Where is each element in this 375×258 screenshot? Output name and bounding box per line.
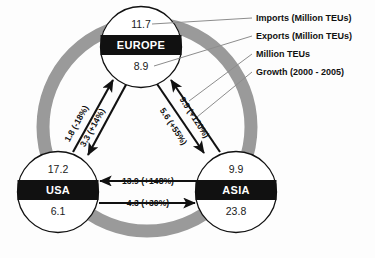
node-usa-imports: 17.2: [48, 163, 69, 175]
legend-item-exports: Exports (Million TEUs): [256, 31, 352, 41]
legend-item-imports: Imports (Million TEUs): [256, 13, 352, 23]
node-asia-exports: 23.8: [226, 205, 247, 217]
node-usa-exports: 6.1: [51, 205, 66, 217]
legend-item-million-teus: Million TEUs: [256, 49, 310, 59]
legend: Imports (Million TEUs) Exports (Million …: [256, 13, 352, 77]
node-usa[interactable]: 17.2 USA 6.1: [18, 152, 99, 233]
node-usa-label: USA: [46, 184, 70, 196]
flow-label-asia-to-usa: 13.9 (+148%): [122, 176, 174, 186]
node-europe-label: EUROPE: [117, 39, 165, 51]
node-europe[interactable]: 11.7 EUROPE 8.9: [101, 7, 182, 88]
flow-label-europe-to-asia: 5.6 (+55%): [158, 106, 189, 147]
node-asia[interactable]: 9.9 ASIA 23.8: [196, 152, 277, 233]
node-europe-exports: 8.9: [134, 60, 149, 72]
trade-flow-diagram: 1.8 (-18%) 3.3 (+14%) 5.6 (+55%) 9.9 (+1…: [0, 0, 375, 258]
node-europe-imports: 11.7: [131, 18, 151, 30]
node-asia-label: ASIA: [222, 184, 249, 196]
flow-label-usa-to-asia: 4.3 (+30%): [127, 198, 169, 208]
legend-item-growth: Growth (2000 - 2005): [256, 67, 344, 77]
node-asia-imports: 9.9: [229, 163, 244, 175]
